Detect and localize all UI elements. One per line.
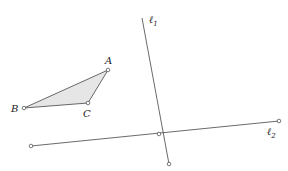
line-l2 [31,121,279,146]
intersection-point [157,132,161,136]
label-l1-subscript: 1 [153,20,157,28]
label-l2-subscript: 2 [270,132,276,140]
geometry-diagram: A B C ℓ1 ℓ2 [0,0,288,171]
point-b [22,106,26,110]
point-a [106,68,110,72]
label-l2: ℓ2 [267,126,276,140]
line-l1 [142,18,169,164]
l2-endpoint-left [29,144,33,148]
l2-endpoint-right [277,119,281,123]
triangle-abc [24,70,108,108]
label-b: B [10,103,18,114]
label-a: A [104,55,112,66]
label-c: C [83,108,91,119]
diagram-canvas: A B C ℓ1 ℓ2 [0,0,288,171]
l1-endpoint-bottom [167,162,171,166]
label-l1: ℓ1 [149,14,158,28]
point-c [86,101,90,105]
